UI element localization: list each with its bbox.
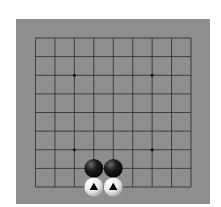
star-point: [151, 148, 154, 151]
black-stone[interactable]: [84, 159, 103, 178]
star-point: [73, 148, 76, 151]
go-board-grid[interactable]: [0, 0, 221, 207]
black-stone[interactable]: [104, 159, 123, 178]
star-point: [151, 74, 154, 77]
star-point: [73, 74, 76, 77]
